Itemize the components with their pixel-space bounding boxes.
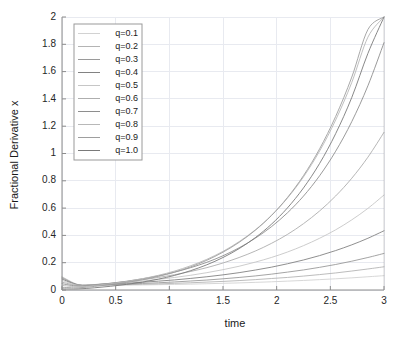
legend-label-q07: q=0.7 [115, 106, 138, 116]
legend-label-q04: q=0.4 [115, 67, 138, 77]
legend-label-q08: q=0.8 [115, 119, 138, 129]
x-tick-label: 3 [381, 295, 387, 306]
x-tick-label: 1.5 [216, 295, 230, 306]
x-tick-label: 0 [59, 295, 65, 306]
legend-label-q01: q=0.1 [115, 28, 138, 38]
y-tick-label: 2 [50, 11, 56, 22]
legend-label-q09: q=0.9 [115, 132, 138, 142]
y-tick-label: 0.6 [42, 202, 56, 213]
y-tick-label: 0.2 [42, 256, 56, 267]
chart-legend: q=0.1q=0.2q=0.3q=0.4q=0.5q=0.6q=0.7q=0.8… [74, 24, 142, 160]
y-tick-label: 1.6 [42, 65, 56, 76]
x-axis-title: time [225, 317, 246, 329]
legend-label-q06: q=0.6 [115, 93, 138, 103]
y-axis-title: Fractional Derivative x [8, 100, 20, 209]
y-tick-label: 0.8 [42, 174, 56, 185]
x-tick-label: 0.5 [109, 295, 123, 306]
y-tick-label: 0.4 [42, 229, 56, 240]
y-tick-label: 1 [50, 147, 56, 158]
y-tick-label: 0 [50, 284, 56, 295]
y-tick-label: 1.2 [42, 120, 56, 131]
legend-label-q03: q=0.3 [115, 54, 138, 64]
legend-label-q10: q=1.0 [115, 145, 138, 155]
y-tick-label: 1.4 [42, 93, 56, 104]
plot-canvas: 00.20.40.60.811.21.41.61.8200.511.522.53… [0, 0, 408, 342]
legend-label-q02: q=0.2 [115, 41, 138, 51]
x-tick-label: 1 [167, 295, 173, 306]
x-tick-label: 2.5 [323, 295, 337, 306]
y-tick-label: 1.8 [42, 38, 56, 49]
x-tick-label: 2 [274, 295, 280, 306]
legend-label-q05: q=0.5 [115, 80, 138, 90]
chart-figure: 00.20.40.60.811.21.41.61.8200.511.522.53… [0, 0, 408, 342]
